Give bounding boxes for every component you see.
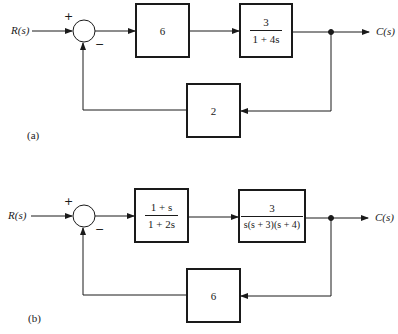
feedback-block-a-label: 2	[187, 84, 240, 137]
denominator: 1 + 2s	[145, 215, 178, 230]
forward-block-1-b-label: 1 + s 1 + 2s	[135, 189, 188, 242]
numerator: 3	[260, 16, 272, 30]
input-label-b: R(s)	[8, 210, 26, 221]
numerator: 3	[266, 202, 278, 216]
transfer-function-fraction: 3 s(s + 3)(s + 4)	[241, 202, 303, 230]
transfer-function-fraction: 1 + s 1 + 2s	[145, 201, 178, 230]
forward-block-1-a-label: 6	[136, 4, 189, 57]
caption-b: (b)	[28, 313, 41, 324]
minus-sign-b: −	[95, 224, 104, 235]
input-label-a: R(s)	[11, 25, 29, 36]
plus-sign-b: +	[64, 196, 73, 207]
gain-value: 6	[211, 290, 217, 302]
transfer-function-fraction: 3 1 + 4s	[250, 16, 283, 45]
caption-a: (a)	[27, 130, 39, 141]
summing-junction-b	[73, 205, 95, 227]
denominator: 1 + 4s	[250, 30, 283, 45]
numerator: 1 + s	[148, 201, 175, 215]
forward-block-2-b-label: 3 s(s + 3)(s + 4)	[239, 190, 305, 242]
gain-value: 6	[160, 25, 166, 37]
summing-junction-a	[73, 20, 95, 42]
gain-value: 2	[211, 105, 217, 117]
denominator: s(s + 3)(s + 4)	[241, 216, 303, 230]
output-label-a: C(s)	[376, 26, 395, 37]
forward-block-2-a-label: 3 1 + 4s	[240, 4, 292, 57]
feedback-block-b-label: 6	[187, 269, 240, 322]
minus-sign-a: −	[95, 39, 104, 50]
plus-sign-a: +	[64, 11, 73, 22]
output-label-b: C(s)	[375, 212, 394, 223]
